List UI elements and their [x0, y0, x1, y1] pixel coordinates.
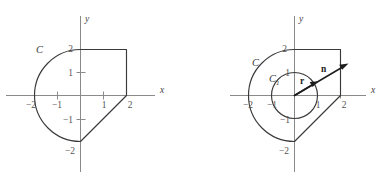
normal-vector-label: n — [321, 64, 327, 74]
y-tick-label-neg1: −1 — [63, 115, 73, 125]
x-tick-label-pos1: 1 — [102, 100, 107, 110]
y-tick-label-pos1: 1 — [68, 68, 73, 78]
x-tick-label-neg1: −1 — [267, 100, 277, 110]
y-tick-label-pos2: 2 — [68, 44, 73, 54]
y-tick-label-neg2: −2 — [279, 146, 289, 156]
x-tick-label-neg1: −1 — [52, 100, 62, 110]
figure-left-region-c: −2 −1 1 2 2 1 −1 −2 x y C — [0, 0, 194, 190]
y-tick-label-neg1: −1 — [280, 115, 290, 125]
figure-right-region-c-c1: −2 −1 1 2 2 1 −1 −2 x y C C 1 r n — [194, 0, 388, 190]
y-tick-label-pos2: 2 — [282, 44, 287, 54]
radius-vector-label: r — [300, 76, 305, 86]
y-axis-label: y — [84, 14, 90, 24]
x-axis-label: x — [159, 85, 165, 95]
svg-text:1: 1 — [276, 79, 280, 87]
x-tick-label-pos2: 2 — [342, 100, 347, 110]
x-axis-label: x — [370, 85, 376, 95]
axes-group-left — [6, 16, 155, 172]
outer-curve-label-c: C — [36, 44, 44, 55]
y-tick-label-pos1: 1 — [285, 68, 290, 78]
x-tick-label-pos2: 2 — [128, 100, 133, 110]
x-tick-label-neg2: −2 — [243, 100, 253, 110]
y-axis-label: y — [298, 14, 304, 24]
outer-curve-label-c: C — [252, 57, 260, 68]
y-tick-label-neg2: −2 — [65, 146, 75, 156]
x-tick-label-neg2: −2 — [26, 100, 36, 110]
x-tick-label-pos1: 1 — [316, 100, 321, 110]
